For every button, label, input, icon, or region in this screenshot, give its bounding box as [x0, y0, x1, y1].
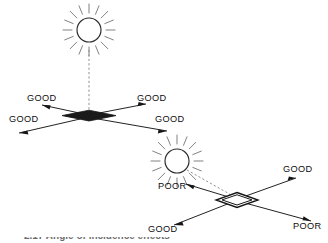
solar-orientation-diagram: GOOD GOOD GOOD GOOD: [0, 0, 328, 243]
label-bottom-upper-right: GOOD: [283, 164, 312, 174]
figure-caption: 2.17 Angle of incidence effects: [24, 237, 170, 241]
figure-caption-strip: 2.17 Angle of incidence effects: [0, 237, 328, 243]
diagram-canvas: GOOD GOOD GOOD GOOD: [0, 0, 328, 243]
label-top-lower-left: GOOD: [9, 114, 38, 124]
label-top-upper-right: GOOD: [137, 93, 166, 103]
label-bottom-lower-left: GOOD: [148, 224, 177, 234]
label-top-lower-right: GOOD: [155, 114, 184, 124]
label-top-upper-left: GOOD: [27, 93, 56, 103]
label-bottom-lower-right: POOR: [293, 221, 321, 231]
label-bottom-upper-left: POOR: [158, 181, 186, 191]
